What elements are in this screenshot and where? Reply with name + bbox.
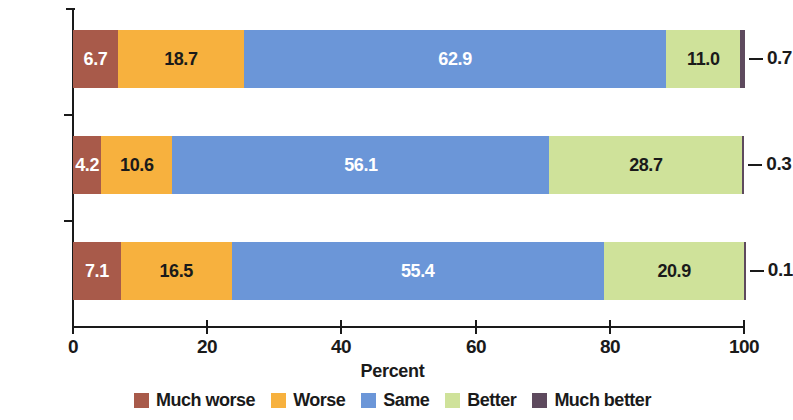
bar-value-label: 10.6 bbox=[120, 155, 153, 176]
x-axis-tick-label-0: 0 bbox=[68, 336, 78, 358]
value-leader-line-round-5 bbox=[749, 58, 763, 60]
value-leader-line-round-4 bbox=[748, 164, 762, 166]
bar-value-label: 7.1 bbox=[85, 261, 109, 282]
bar-segment-round-3-much-worse: 7.1 bbox=[73, 242, 121, 300]
legend-item-much-worse[interactable]: Much worse bbox=[134, 390, 255, 411]
legend-label: Worse bbox=[293, 390, 345, 411]
bar-segment-round-4-better: 28.7 bbox=[549, 136, 742, 194]
x-axis-tick-label-20: 20 bbox=[197, 336, 217, 358]
bar-value-label-much-better-round-5: 0.7 bbox=[767, 47, 792, 69]
bar-value-label: 56.1 bbox=[344, 155, 377, 176]
bar-value-label: 6.7 bbox=[84, 49, 108, 70]
legend-swatch-icon bbox=[445, 393, 460, 408]
legend-item-worse[interactable]: Worse bbox=[271, 390, 345, 411]
legend-item-same[interactable]: Same bbox=[361, 390, 429, 411]
bar-value-label: 16.5 bbox=[159, 261, 192, 282]
legend-label: Better bbox=[467, 390, 516, 411]
y-axis-top-cap bbox=[66, 8, 75, 10]
bar-value-label: 4.2 bbox=[75, 155, 99, 176]
bar-segment-round-5-worse: 18.7 bbox=[118, 30, 244, 88]
bar-segment-round-5-better: 11.0 bbox=[666, 30, 740, 88]
bar-segment-round-5-same: 62.9 bbox=[244, 30, 667, 88]
bar-value-label: 62.9 bbox=[438, 49, 471, 70]
legend-swatch-icon bbox=[361, 393, 376, 408]
bar-segment-round-4-much-worse: 4.2 bbox=[73, 136, 101, 194]
bar-value-label: 11.0 bbox=[687, 49, 719, 70]
x-axis-tick-label-80: 80 bbox=[600, 336, 620, 358]
bar-segment-round-3-worse: 16.5 bbox=[121, 242, 232, 300]
x-axis-tick-40 bbox=[340, 320, 342, 334]
y-axis-tick-1 bbox=[64, 114, 73, 116]
x-axis-tick-100 bbox=[743, 320, 745, 334]
x-axis-tick-60 bbox=[475, 320, 477, 334]
bar-segment-round-4-same: 56.1 bbox=[172, 136, 549, 194]
x-axis-tick-label-100: 100 bbox=[729, 336, 759, 358]
bar-segment-round-3-better: 20.9 bbox=[604, 242, 744, 300]
legend-label: Much worse bbox=[156, 390, 255, 411]
legend-label: Much better bbox=[554, 390, 651, 411]
bar-segment-round-3-much-better bbox=[744, 242, 746, 300]
legend-label: Same bbox=[383, 390, 429, 411]
x-axis-title: Percent bbox=[0, 361, 785, 382]
legend-item-better[interactable]: Better bbox=[445, 390, 516, 411]
x-axis-tick-20 bbox=[206, 320, 208, 334]
x-axis-tick-label-60: 60 bbox=[466, 336, 486, 358]
bar-value-label: 18.7 bbox=[164, 49, 197, 70]
y-axis-tick-2 bbox=[64, 220, 73, 222]
bar-value-label: 55.4 bbox=[401, 261, 434, 282]
legend-swatch-icon bbox=[134, 393, 149, 408]
x-axis-tick-0 bbox=[72, 320, 74, 334]
bar-segment-round-3-same: 55.4 bbox=[232, 242, 604, 300]
x-axis-tick-label-40: 40 bbox=[331, 336, 351, 358]
legend-swatch-icon bbox=[271, 393, 286, 408]
chart-legend: Much worseWorseSameBetterMuch better bbox=[0, 390, 785, 411]
value-leader-line-round-3 bbox=[750, 270, 764, 272]
bar-value-label: 28.7 bbox=[629, 155, 662, 176]
legend-swatch-icon bbox=[532, 393, 547, 408]
x-axis-tick-80 bbox=[609, 320, 611, 334]
bar-segment-round-4-worse: 10.6 bbox=[101, 136, 172, 194]
legend-item-much-better[interactable]: Much better bbox=[532, 390, 651, 411]
bar-value-label-much-better-round-3: 0.1 bbox=[768, 259, 793, 281]
bar-value-label: 20.9 bbox=[657, 261, 690, 282]
bar-segment-round-5-much-worse: 6.7 bbox=[73, 30, 118, 88]
x-axis-line bbox=[73, 326, 745, 328]
bar-segment-round-5-much-better bbox=[740, 30, 745, 88]
bar-segment-round-4-much-better bbox=[742, 136, 744, 194]
bar-value-label-much-better-round-4: 0.3 bbox=[766, 153, 791, 175]
